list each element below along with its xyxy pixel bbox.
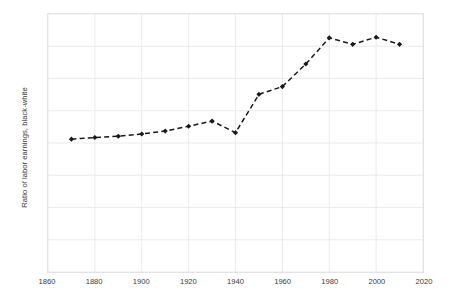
- data-point-marker: [186, 124, 191, 129]
- data-point-marker: [233, 130, 238, 135]
- x-tick-label: 1860: [24, 277, 70, 286]
- data-point-marker: [69, 137, 74, 142]
- data-point-marker: [256, 92, 261, 97]
- plot-area: [47, 13, 424, 273]
- data-line: [71, 37, 399, 139]
- x-tick-label: 1920: [165, 277, 211, 286]
- data-point-marker: [209, 118, 214, 123]
- x-tick-label: 1900: [118, 277, 164, 286]
- y-axis-title: Ratio of labor earnings, black-white: [20, 68, 29, 228]
- data-point-marker: [350, 42, 355, 47]
- data-point-marker: [327, 35, 332, 40]
- x-tick-label: 1980: [307, 277, 353, 286]
- x-tick-label: 2000: [354, 277, 400, 286]
- data-point-marker: [92, 135, 97, 140]
- data-series-layer: [48, 14, 423, 272]
- x-tick-label: 1940: [213, 277, 259, 286]
- chart-figure: Ratio of labor earnings, black-white 0.0…: [0, 0, 450, 299]
- data-point-marker: [397, 42, 402, 47]
- x-tick-label: 1880: [71, 277, 117, 286]
- data-point-marker: [374, 35, 379, 40]
- data-point-marker: [139, 131, 144, 136]
- data-point-marker: [116, 134, 121, 139]
- x-tick-label: 2020: [401, 277, 447, 286]
- x-tick-label: 1960: [260, 277, 306, 286]
- data-point-marker: [163, 128, 168, 133]
